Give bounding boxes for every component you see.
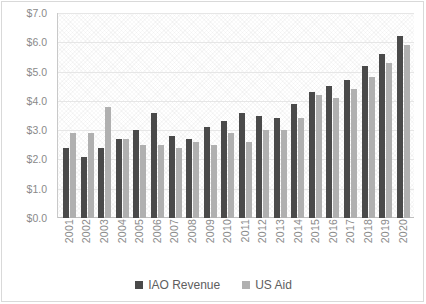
bar-us-aid[interactable] — [386, 63, 392, 218]
x-axis-tick-label: 2013 — [274, 219, 286, 243]
x-axis-tick-label: 2007 — [168, 219, 180, 243]
x-axis-tick: 2008 — [183, 219, 201, 271]
bar-iao-revenue[interactable] — [239, 113, 245, 218]
bar-us-aid[interactable] — [88, 133, 94, 218]
bar-iao-revenue[interactable] — [379, 54, 385, 218]
bar-group — [219, 13, 237, 218]
chart-legend: IAO Revenue US Aid — [2, 278, 425, 292]
bar-group — [131, 13, 149, 218]
bar-iao-revenue[interactable] — [256, 116, 262, 219]
bar-us-aid[interactable] — [211, 145, 217, 218]
bar-iao-revenue[interactable] — [204, 127, 210, 218]
plot-area — [57, 13, 414, 218]
bar-us-aid[interactable] — [158, 145, 164, 218]
x-axis-labels: 2001200220032004200520062007200820092010… — [57, 219, 414, 271]
x-axis-tick-label: 2004 — [116, 219, 128, 243]
bar-group — [254, 13, 272, 218]
bar-iao-revenue[interactable] — [116, 139, 122, 218]
x-axis-tick-label: 2012 — [256, 219, 268, 243]
bar-us-aid[interactable] — [333, 98, 339, 218]
x-axis-tick: 2003 — [95, 219, 113, 271]
bar-us-aid[interactable] — [105, 107, 111, 218]
x-axis-tick-label: 2002 — [80, 219, 92, 243]
bar-iao-revenue[interactable] — [309, 92, 315, 218]
bar-iao-revenue[interactable] — [151, 113, 157, 218]
x-axis-tick: 2009 — [201, 219, 219, 271]
bar-us-aid[interactable] — [404, 45, 410, 218]
bar-iao-revenue[interactable] — [169, 136, 175, 218]
x-axis-tick: 2020 — [394, 219, 412, 271]
x-axis-tick-label: 2011 — [239, 219, 251, 242]
bar-iao-revenue[interactable] — [133, 130, 139, 218]
bar-iao-revenue[interactable] — [81, 157, 87, 219]
x-axis-tick: 2012 — [254, 219, 272, 271]
bar-iao-revenue[interactable] — [274, 118, 280, 218]
x-axis-tick: 2007 — [166, 219, 184, 271]
legend-item-us-aid[interactable]: US Aid — [242, 278, 292, 292]
bar-us-aid[interactable] — [298, 118, 304, 218]
x-axis-tick-label: 2019 — [379, 219, 391, 243]
bar-us-aid[interactable] — [263, 130, 269, 218]
legend-label: IAO Revenue — [148, 278, 220, 292]
bar-iao-revenue[interactable] — [186, 139, 192, 218]
bar-us-aid[interactable] — [176, 148, 182, 218]
x-axis-tick: 2019 — [377, 219, 395, 271]
bar-iao-revenue[interactable] — [291, 104, 297, 218]
bar-us-aid[interactable] — [246, 142, 252, 218]
x-axis-tick: 2004 — [113, 219, 131, 271]
bar-iao-revenue[interactable] — [63, 148, 69, 218]
bar-iao-revenue[interactable] — [397, 36, 403, 218]
bar-us-aid[interactable] — [316, 95, 322, 218]
bar-group — [342, 13, 360, 218]
bar-us-aid[interactable] — [193, 142, 199, 218]
x-axis-tick-label: 2020 — [397, 219, 409, 243]
x-axis-tick: 2017 — [342, 219, 360, 271]
legend-item-iao-revenue[interactable]: IAO Revenue — [135, 278, 220, 292]
x-axis-tick-label: 2018 — [362, 219, 374, 243]
y-axis-tick-label: $4.0 — [27, 95, 47, 107]
bar-us-aid[interactable] — [123, 139, 129, 218]
chart-frame: $7.0$6.0$5.0$4.0$3.0$2.0$1.0$0.0 2001200… — [1, 1, 424, 302]
y-axis-tick-label: $1.0 — [27, 183, 47, 195]
bar-group — [307, 13, 325, 218]
x-axis-tick-label: 2003 — [98, 219, 110, 243]
x-axis-tick-label: 2001 — [63, 219, 75, 243]
bar-group — [272, 13, 290, 218]
bar-iao-revenue[interactable] — [344, 80, 350, 218]
bar-group — [166, 13, 184, 218]
bar-us-aid[interactable] — [140, 145, 146, 218]
y-axis-tick-label: $7.0 — [27, 7, 47, 19]
bar-iao-revenue[interactable] — [221, 121, 227, 218]
bar-group — [201, 13, 219, 218]
y-axis-tick-label: $0.0 — [27, 212, 47, 224]
bar-iao-revenue[interactable] — [98, 148, 104, 218]
x-axis-tick: 2010 — [218, 219, 236, 271]
x-axis-tick-label: 2009 — [204, 219, 216, 243]
y-axis-tick-label: $2.0 — [27, 153, 47, 165]
bar-iao-revenue[interactable] — [326, 86, 332, 218]
x-axis-tick-label: 2017 — [344, 219, 356, 243]
bar-group — [377, 13, 395, 218]
x-axis-tick-label: 2015 — [309, 219, 321, 243]
bar-group — [96, 13, 114, 218]
x-axis-tick: 2005 — [130, 219, 148, 271]
bar-us-aid[interactable] — [281, 130, 287, 218]
x-axis-tick: 2016 — [324, 219, 342, 271]
bar-group — [79, 13, 97, 218]
x-axis-tick: 2001 — [60, 219, 78, 271]
x-axis-tick: 2013 — [271, 219, 289, 271]
bar-us-aid[interactable] — [228, 133, 234, 218]
x-axis-tick-label: 2006 — [151, 219, 163, 243]
bar-group — [61, 13, 79, 218]
bar-series-container — [58, 13, 414, 218]
x-axis-tick-label: 2016 — [327, 219, 339, 243]
bar-group — [359, 13, 377, 218]
bar-us-aid[interactable] — [351, 89, 357, 218]
y-axis-tick-label: $6.0 — [27, 36, 47, 48]
x-axis-tick: 2011 — [236, 219, 254, 271]
bar-us-aid[interactable] — [369, 77, 375, 218]
bar-iao-revenue[interactable] — [362, 66, 368, 218]
x-axis-tick-label: 2010 — [221, 219, 233, 243]
bar-us-aid[interactable] — [70, 133, 76, 218]
legend-swatch-icon — [242, 281, 250, 289]
